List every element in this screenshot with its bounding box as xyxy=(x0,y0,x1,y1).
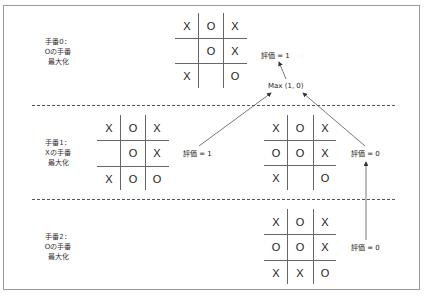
middle-right-eval-label: 評価 = 0 xyxy=(351,148,380,158)
arrow-max-to-top-eval xyxy=(279,62,286,79)
bottom-eval-label: 評価 = 0 xyxy=(351,242,380,252)
max-label: Max (1, 0) xyxy=(268,82,304,90)
top-eval-label: 評価 = 1 xyxy=(261,50,290,60)
arrow-left-eval-to-max xyxy=(199,93,271,146)
arrow-right-eval-to-max xyxy=(303,93,365,146)
middle-left-eval-label: 評価 = 1 xyxy=(183,148,212,158)
